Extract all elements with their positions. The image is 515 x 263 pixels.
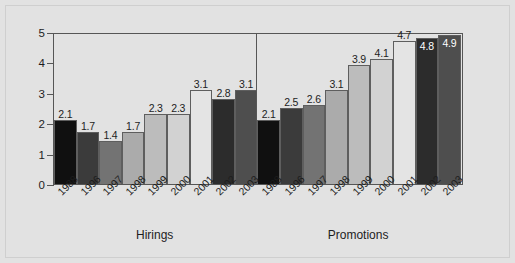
x-tick-slot: 1988 <box>257 186 280 226</box>
group-caption-promotions: Promotions <box>328 228 389 242</box>
bar-slot: 2.1 <box>257 34 280 184</box>
bar-value-label: 2.5 <box>284 97 298 108</box>
chart-figure: 012345 2.11.71.41.72.32.33.12.83.12.12.5… <box>0 0 515 263</box>
bar-value-label: 2.1 <box>58 109 72 120</box>
y-axis-tick-label: 4 <box>39 57 45 69</box>
y-axis-tick-label: 5 <box>39 27 45 39</box>
bar[interactable]: 4.7 <box>393 41 416 184</box>
bar-value-label: 1.7 <box>126 121 140 132</box>
bar-value-label: 1.7 <box>81 121 95 132</box>
bar-value-label: 2.3 <box>171 103 185 114</box>
bar-slot: 4.1 <box>370 34 393 184</box>
bar-value-label: 3.1 <box>239 79 253 90</box>
bar-slot: 4.9 <box>438 34 461 184</box>
x-tick-slot: 1998 <box>325 186 348 226</box>
bar-slot: 1.7 <box>77 34 100 184</box>
bar[interactable]: 3.1 <box>235 90 258 184</box>
bar[interactable]: 3.1 <box>325 90 348 184</box>
group-caption-hirings: Hirings <box>136 228 173 242</box>
x-tick-slot: 1988 <box>53 186 76 226</box>
bar-value-label: 4.1 <box>375 48 389 59</box>
bar-slot: 2.1 <box>54 34 77 184</box>
bar-value-label: 2.8 <box>216 88 230 99</box>
bar-slot: 2.6 <box>303 34 326 184</box>
bar-slot: 4.7 <box>393 34 416 184</box>
bar-value-label: 4.7 <box>397 30 411 41</box>
bar-value-label: 1.4 <box>103 130 117 141</box>
x-tick-slot: 1996 <box>280 186 303 226</box>
bar[interactable]: 2.3 <box>144 114 167 184</box>
bar-value-label: 2.6 <box>307 94 321 105</box>
bar-slot: 3.1 <box>190 34 213 184</box>
x-tick-slot: 2003 <box>438 186 461 226</box>
bar-value-label: 3.1 <box>194 79 208 90</box>
bar-group-hirings: 2.11.71.41.72.32.33.12.83.1 <box>54 34 257 184</box>
bar[interactable]: 2.6 <box>303 105 326 184</box>
x-tick-slot: 2001 <box>189 186 212 226</box>
bar-slot: 1.7 <box>122 34 145 184</box>
x-tick-slot: 2002 <box>416 186 439 226</box>
bar[interactable]: 4.8 <box>416 38 439 184</box>
y-axis-tick-label: 0 <box>39 179 45 191</box>
bar-slot: 2.3 <box>144 34 167 184</box>
bar-slot: 3.9 <box>348 34 371 184</box>
x-tick-slot: 2001 <box>393 186 416 226</box>
bar[interactable]: 2.8 <box>212 99 235 184</box>
bar-slot: 3.1 <box>235 34 258 184</box>
x-tick-slot: 1998 <box>121 186 144 226</box>
bar-slot: 3.1 <box>325 34 348 184</box>
bar-slot: 2.5 <box>280 34 303 184</box>
bar-group-promotions: 2.12.52.63.13.94.14.74.84.9 <box>256 34 460 184</box>
bar[interactable]: 2.3 <box>167 114 190 184</box>
plot-area: 2.11.71.41.72.32.33.12.83.12.12.52.63.13… <box>53 33 463 185</box>
x-tick-slot: 1997 <box>303 186 326 226</box>
bar-slot: 2.8 <box>212 34 235 184</box>
bar-value-label: 3.9 <box>352 54 366 65</box>
bar-value-label: 3.1 <box>329 79 343 90</box>
bar-slot: 2.3 <box>167 34 190 184</box>
x-tick-slot: 2002 <box>211 186 234 226</box>
bar-value-label: 2.1 <box>262 109 276 120</box>
x-tick-slot: 2000 <box>370 186 393 226</box>
bars-container: 2.11.71.41.72.32.33.12.83.12.12.52.63.13… <box>54 34 462 184</box>
y-axis-tick-label: 1 <box>39 149 45 161</box>
x-tick-slot: 2003 <box>234 186 257 226</box>
bar[interactable]: 2.5 <box>280 108 303 184</box>
bar[interactable]: 3.1 <box>190 90 213 184</box>
x-tick-slot: 1999 <box>348 186 371 226</box>
bar[interactable]: 3.9 <box>348 65 371 184</box>
x-tick-slot: 1997 <box>98 186 121 226</box>
bar-slot: 4.8 <box>416 34 439 184</box>
x-tick-slot: 2000 <box>166 186 189 226</box>
y-axis-tick-label: 3 <box>39 88 45 100</box>
bar-value-label: 4.8 <box>420 41 434 52</box>
bar-value-label: 2.3 <box>149 103 163 114</box>
x-tick-slot: 1996 <box>76 186 99 226</box>
bar-value-label: 4.9 <box>442 38 456 49</box>
bar[interactable]: 4.9 <box>438 35 461 184</box>
x-tick-slot: 1999 <box>143 186 166 226</box>
y-axis-tick-label: 2 <box>39 118 45 130</box>
bar-slot: 1.4 <box>99 34 122 184</box>
bar[interactable]: 4.1 <box>370 59 393 184</box>
x-axis-tick-labels: 1988199619971998199920002001200220031988… <box>53 186 463 226</box>
